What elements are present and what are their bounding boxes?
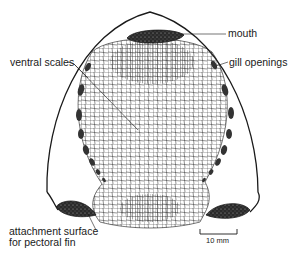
pectoral-fin-attachment-right [206, 204, 250, 219]
pectoral-fin-attachment-left [56, 201, 96, 217]
gill-openings-label: gill openings [229, 57, 287, 68]
scale-bar-label: 10 mm [206, 236, 229, 245]
scale-bar [200, 229, 237, 234]
mouth-label: mouth [228, 28, 257, 39]
fine-scale-region-lower [120, 194, 180, 222]
attachment-surface-label: attachment surface for pectoral fin [9, 226, 98, 248]
fine-scale-region [110, 40, 194, 84]
ventral-scales-label: ventral scales [10, 57, 74, 68]
attachment-surface-label-line2: for pectoral fin [9, 237, 98, 248]
